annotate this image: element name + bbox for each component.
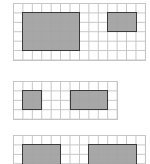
- grid-1-shaded-rect-1: [22, 12, 80, 51]
- grid-2-shaded-rect-2: [70, 90, 109, 110]
- grid-3-shaded-rect-1: [22, 144, 61, 164]
- grid-3-shaded-rect-2: [88, 144, 136, 164]
- grid-1-shaded-rect-2: [107, 12, 136, 32]
- grid-2-shaded-rect-1: [22, 90, 42, 110]
